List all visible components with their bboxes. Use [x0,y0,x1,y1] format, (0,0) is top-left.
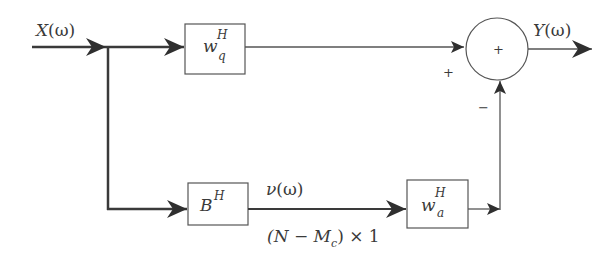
signal-label: ν(ω) [266,181,303,198]
signal-name-arg: (ω) [276,179,303,199]
block-wq-base: w [203,38,218,55]
signal-dimension-close: ) × 1 [337,226,380,246]
output-label-base: Y [533,20,544,40]
block-diagram: X(ω) w H q + + − Y(ω) B H ν(ω) (N − Mc) … [0,0,616,255]
output-label: Y(ω) [533,22,571,39]
block-wa-base: w [421,197,436,214]
block-wq-sup: H [217,29,227,41]
diagram-lines [0,0,616,255]
signal-name-base: ν [266,179,276,199]
signal-dimension-sub: c [331,237,337,250]
input-label: X(ω) [36,22,75,39]
summer-symbol: + [493,43,504,56]
signal-dimension: (N − Mc) × 1 [267,228,380,245]
input-label-arg: (ω) [48,20,75,40]
block-wa-sup: H [435,187,445,199]
block-wq-sub: q [218,50,226,62]
summer-bottom-sign: − [478,101,489,114]
summer-top-sign: + [443,66,454,79]
output-label-arg: (ω) [544,20,571,40]
signal-dimension-open: (N − M [267,226,331,246]
block-B-sup: H [214,190,224,202]
block-wa-sub: a [437,207,444,219]
input-label-base: X [36,20,48,40]
block-B-base: B [200,197,213,214]
